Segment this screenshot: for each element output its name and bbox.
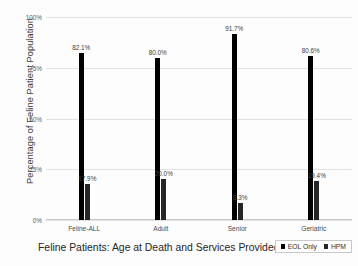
gridline: [46, 220, 352, 221]
bar-group: 82.1%17.9%Feline-ALL: [46, 17, 123, 220]
bar-slot: 82.1%: [79, 17, 84, 220]
bar[interactable]: [155, 58, 160, 220]
y-axis-tick-label: 0%: [33, 217, 42, 224]
bar-value-label: 19.4%: [308, 172, 326, 179]
bar-slot: 80.6%: [308, 17, 313, 220]
y-axis-tick-label: 75%: [29, 64, 42, 71]
legend-item[interactable]: HPM: [324, 243, 346, 250]
y-axis-tick-label: 25%: [29, 166, 42, 173]
bar[interactable]: [308, 56, 313, 220]
bar-slot: 91.7%: [232, 17, 237, 220]
bar-group: 80.6%19.4%Geriatric: [276, 17, 353, 220]
bar-value-label: 20.0%: [155, 170, 173, 177]
bar[interactable]: [79, 53, 84, 220]
bar-slot: 20.0%: [161, 17, 166, 220]
bar-slot: 80.0%: [155, 17, 160, 220]
bar-value-label: 8.3%: [233, 194, 248, 201]
bar[interactable]: [314, 181, 319, 220]
bar[interactable]: [161, 179, 166, 220]
y-axis-tick-label: 50%: [29, 115, 42, 122]
x-axis-category-label: Feline-ALL: [46, 225, 123, 232]
x-axis-category-label: Adult: [123, 225, 200, 232]
bar-slot: 17.9%: [85, 17, 90, 220]
bar-value-label: 17.9%: [78, 175, 96, 182]
legend-swatch-icon: [324, 244, 329, 249]
x-axis-category-label: Geriatric: [276, 225, 353, 232]
chart-footer: Feline Patients: Age at Death and Servic…: [0, 239, 358, 261]
y-axis-title: Percentage of Feline Patient Population: [25, 0, 35, 206]
bar-slot: 8.3%: [238, 17, 243, 220]
bar-chart: Percentage of Feline Patient Population …: [0, 0, 358, 266]
legend: EOL OnlyHPM: [275, 240, 352, 253]
x-axis-category-label: Senior: [199, 225, 276, 232]
plot-area: 0%25%50%75%100% 82.1%17.9%Feline-ALL80.0…: [46, 17, 352, 220]
bar[interactable]: [232, 34, 237, 220]
bar-group: 91.7%8.3%Senior: [199, 17, 276, 220]
bar[interactable]: [85, 184, 90, 220]
bar-slot: 19.4%: [314, 17, 319, 220]
bar-group: 80.0%20.0%Adult: [123, 17, 200, 220]
y-axis-tick-label: 100%: [26, 14, 42, 21]
legend-label: HPM: [331, 243, 346, 250]
x-axis-title: Feline Patients: Age at Death and Servic…: [38, 242, 279, 253]
bar[interactable]: [238, 203, 243, 220]
legend-label: EOL Only: [288, 243, 317, 250]
legend-item[interactable]: EOL Only: [281, 243, 317, 250]
legend-swatch-icon: [281, 244, 286, 249]
